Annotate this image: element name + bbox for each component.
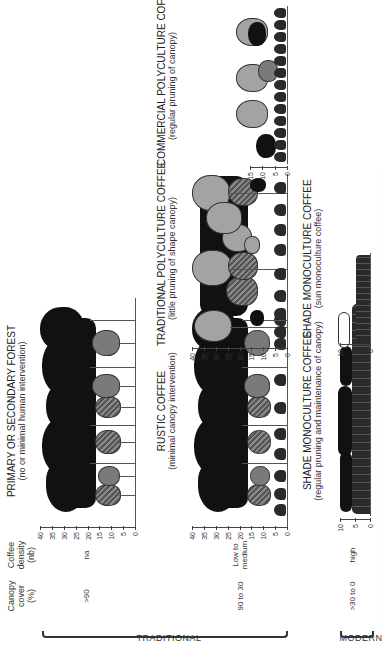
panel-subtitle: (regular pruning of canopy) [167,6,177,166]
panel-traditional-polyculture-heading: TRADITIONAL POLYCULTURE COFFEE (little p… [156,171,177,346]
header-canopy-cover: Canopy cover (%) [6,576,36,616]
primary-forest-height-axis: 40 35 30 25 20 15 10 5 0 [40,527,135,528]
row-3-canopy-cover: >30 to 0 [348,576,357,616]
panel-title: PRIMARY OR SECONDARY FOREST [6,296,17,526]
traditional-polyculture-illustration [192,171,288,346]
faint-caption: · · · · · · · · · · · · · · · · · · · · … [378,6,384,646]
primary-forest-illustration [40,296,136,526]
header-line: (%) [26,576,36,616]
row-3-coffee-density: high [348,534,357,576]
panel-title: TRADITIONAL POLYCULTURE COFFEE [156,171,167,346]
header-line: (nb) [26,534,36,576]
panel-commercial-polyculture-heading: COMMERCIAL POLYCULTURE COFFEE (regular p… [156,6,177,166]
panel-title: COMMERCIAL POLYCULTURE COFFEE [156,6,167,166]
sun-monoculture-illustration [354,251,371,341]
traditional-label-wrap: TRADITIONAL [158,588,176,646]
modern-label: MODERN [340,633,383,643]
panel-sun-monoculture-heading: SHADE MONOCULTURE COFFEE (sun monocultur… [302,171,323,346]
row-1-canopy-cover: >90 [82,576,91,616]
shade-monoculture-height-axis: 10 5 0 [340,519,370,520]
header-line: Canopy [6,576,16,616]
header-line: density [16,534,26,576]
traditional-label: TRADITIONAL [136,633,201,643]
panel-subtitle: (sun monoculture coffee) [313,171,323,346]
sun-monoculture-height-axis: 10 5 0 [340,344,370,345]
panel-subtitle: (no or minimal human intervention) [17,296,27,526]
panel-title: SHADE MONOCULTURE COFFEE [302,171,313,346]
header-coffee-density: Coffee density (nb) [6,534,36,576]
header-line: Coffee [6,534,16,576]
commercial-polyculture-height-axis: 15 10 5 0 [250,167,287,168]
panel-primary-forest-heading: PRIMARY OR SECONDARY FOREST (no or minim… [6,296,27,526]
coffee-systems-diagram: Canopy cover (%) Coffee density (nb) TRA… [0,0,387,646]
traditional-polyculture-height-axis: 40 35 30 25 20 15 10 5 0 [192,348,287,349]
panel-subtitle: (little pruning of shape canopy) [167,171,177,346]
header-line: cover [16,576,26,616]
commercial-polyculture-illustration [236,4,288,164]
row-2-canopy-cover: 90 to 30 [236,576,245,616]
rustic-height-axis: 40 35 30 25 20 15 10 5 0 [192,527,287,528]
